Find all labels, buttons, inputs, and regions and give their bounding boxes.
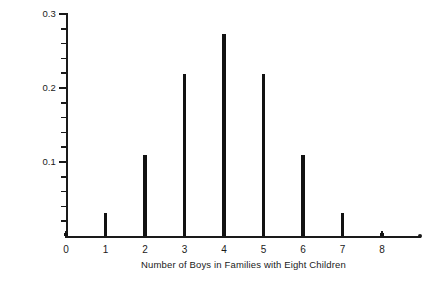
bar	[64, 233, 67, 236]
y-axis-minor-tick	[61, 102, 67, 104]
x-axis-tick-label: 4	[212, 244, 236, 255]
y-axis-minor-tick	[61, 146, 67, 148]
bar	[222, 34, 225, 236]
chart-screenshot: 0.10.20.3 012345678 Number of Boys in Fa…	[0, 0, 437, 282]
plot-area: 0.10.20.3 012345678 Number of Boys in Fa…	[0, 0, 437, 282]
y-axis-major-tick	[59, 13, 68, 15]
x-axis-tick-label: 5	[252, 244, 276, 255]
y-axis-minor-tick	[61, 220, 67, 222]
y-axis-tick-label: 0.3	[8, 8, 56, 19]
y-axis-line	[66, 13, 68, 237]
y-axis-tick-label: 0.2	[8, 82, 56, 93]
x-axis-tick-label: 1	[94, 244, 118, 255]
y-axis-minor-tick	[61, 72, 67, 74]
y-axis-major-tick	[59, 161, 68, 163]
y-axis-tick-label: 0.1	[8, 156, 56, 167]
bar	[104, 213, 107, 236]
y-axis-minor-tick	[61, 132, 67, 134]
y-axis-minor-tick	[61, 28, 67, 30]
y-axis-minor-tick	[61, 191, 67, 193]
bar	[143, 155, 146, 236]
bar	[380, 233, 383, 236]
bar	[183, 74, 186, 236]
y-axis-minor-tick	[61, 117, 67, 119]
x-axis-line	[66, 236, 421, 238]
x-axis-end-marker	[418, 234, 422, 238]
x-axis-tick-label: 3	[173, 244, 197, 255]
x-axis-tick-label: 8	[370, 244, 394, 255]
y-axis-minor-tick	[61, 176, 67, 178]
x-axis-tick-label: 7	[331, 244, 355, 255]
bar	[262, 74, 265, 236]
y-axis-major-tick	[59, 87, 68, 89]
bar	[341, 213, 344, 236]
bar	[301, 155, 304, 236]
x-axis-title: Number of Boys in Families with Eight Ch…	[66, 259, 421, 270]
x-axis-tick-label: 0	[54, 244, 78, 255]
y-axis-minor-tick	[61, 206, 67, 208]
y-axis-minor-tick	[61, 43, 67, 45]
x-axis-tick-label: 2	[133, 244, 157, 255]
y-axis-minor-tick	[61, 58, 67, 60]
x-axis-tick-label: 6	[291, 244, 315, 255]
